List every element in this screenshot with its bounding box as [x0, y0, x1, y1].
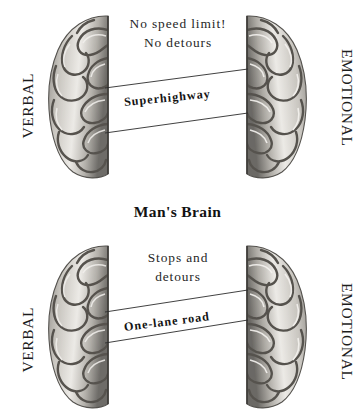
road-line-lower: [105, 113, 248, 133]
panel-top-left-label: VERBAL: [20, 61, 36, 151]
panel-bottom-right-label: EMOTIONAL: [339, 277, 355, 387]
diagram-panel-top: VERBAL EMOTIONAL No speed limit! No deto…: [0, 0, 355, 190]
brain-hemisphere-left-icon: [46, 244, 114, 410]
panel-bottom-left-label: VERBAL: [20, 295, 36, 385]
brain-hemisphere-left-icon: [46, 14, 114, 180]
road-label-superhighway: Superhighway: [123, 88, 211, 109]
road-line-upper: [105, 69, 248, 88]
panel-top-right-label: EMOTIONAL: [339, 43, 355, 153]
brain-diagram-figure: VERBAL EMOTIONAL No speed limit! No deto…: [0, 0, 355, 418]
page-title: Man's Brain: [0, 203, 355, 221]
brain-hemisphere-right-icon: [241, 244, 309, 410]
road-line-upper: [105, 290, 248, 312]
brain-hemisphere-right-icon: [241, 14, 309, 180]
